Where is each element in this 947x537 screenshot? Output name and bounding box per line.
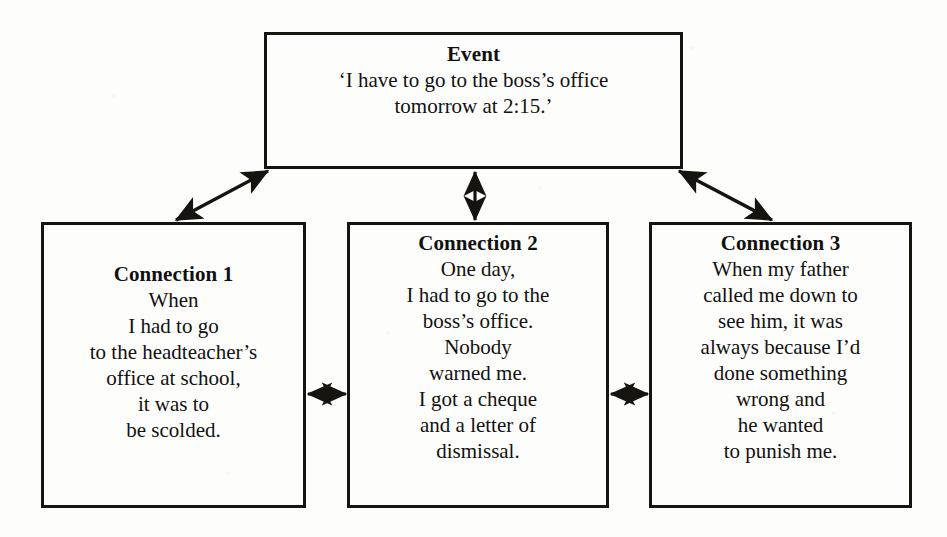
connection-box-1: Connection 1 When I had to go to the hea… [41, 222, 306, 508]
connection-3-line-1: When my father [652, 256, 909, 282]
arrow-event-to-connection-1 [176, 171, 268, 220]
connection-2-line-4: Nobody [350, 334, 606, 360]
connection-box-3: Connection 3 When my father called me do… [649, 222, 912, 508]
connection-1-line-4: office at school, [44, 365, 303, 391]
connection-3-line-2: called me down to [652, 282, 909, 308]
event-line-1: ‘I have to go to the boss’s office [267, 67, 680, 93]
connection-2-line-1: One day, [350, 256, 606, 282]
connection-2-line-2: I had to go to the [350, 282, 606, 308]
connection-1-line-6: be scolded. [44, 417, 303, 443]
connection-3-line-5: done something [652, 360, 909, 386]
connection-3-line-4: always because I’d [652, 334, 909, 360]
connection-1-line-2: I had to go [44, 313, 303, 339]
connection-box-2: Connection 2 One day, I had to go to the… [347, 222, 609, 508]
connection-1-line-3: to the headteacher’s [44, 339, 303, 365]
connection-1-line-1: When [44, 287, 303, 313]
connection-3-line-6: wrong and [652, 386, 909, 412]
connection-2-line-5: warned me. [350, 360, 606, 386]
connection-3-title: Connection 3 [652, 230, 909, 256]
connection-3-line-3: see him, it was [652, 308, 909, 334]
connection-1-line-5: it was to [44, 391, 303, 417]
connection-3-line-7: he wanted [652, 412, 909, 438]
connection-3-line-8: to punish me. [652, 438, 909, 464]
event-line-2: tomorrow at 2:15.’ [267, 93, 680, 119]
connection-2-line-8: dismissal. [350, 438, 606, 464]
connection-2-line-7: and a letter of [350, 412, 606, 438]
connection-2-title: Connection 2 [350, 230, 606, 256]
event-box: Event ‘I have to go to the boss’s office… [264, 32, 683, 169]
connection-2-line-3: boss’s office. [350, 308, 606, 334]
arrow-event-to-connection-3 [679, 171, 772, 220]
diagram-canvas: Event ‘I have to go to the boss’s office… [0, 0, 947, 537]
connection-1-title: Connection 1 [44, 261, 303, 287]
connection-2-line-6: I got a cheque [350, 386, 606, 412]
event-title: Event [267, 41, 680, 67]
